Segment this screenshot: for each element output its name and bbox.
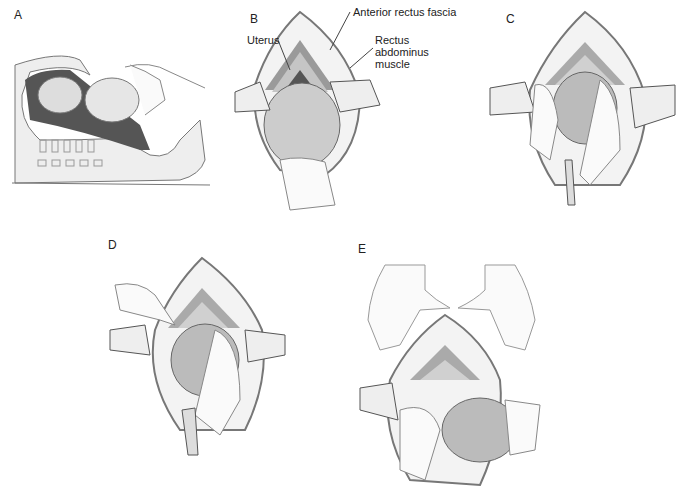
label-rectus-line1: Rectus [375, 34, 429, 46]
incision-illustration-d [100, 230, 320, 470]
label-anterior-rectus-fascia: Anterior rectus fascia [353, 6, 456, 18]
label-rectus-line3: muscle [375, 58, 429, 70]
panel-e: E [340, 230, 580, 493]
panel-d: D [100, 230, 320, 470]
incision-illustration-c [480, 0, 676, 220]
panel-a: A [0, 0, 230, 200]
incision-illustration-e [340, 230, 580, 493]
panel-c: C [480, 0, 676, 220]
label-rectus-abdominus-muscle: Rectus abdominus muscle [375, 34, 429, 70]
label-uterus: Uterus [247, 34, 279, 46]
panel-b: B Anterior rectus fascia Uterus Rectus a… [230, 0, 470, 230]
sagittal-illustration [0, 0, 230, 200]
label-rectus-line2: abdominus [375, 46, 429, 58]
